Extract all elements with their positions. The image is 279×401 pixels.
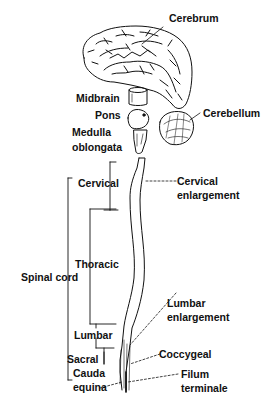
label-cauda-line2: equina <box>73 381 107 394</box>
pons-shape <box>128 109 149 128</box>
anatomy-diagram: Cerebrum Midbrain Pons Medulla oblongata… <box>0 0 279 401</box>
label-sacral: Sacral <box>67 353 99 366</box>
label-lumbar-enlargement-line1: Lumbar <box>167 297 206 310</box>
label-cauda-line1: Cauda <box>73 367 105 380</box>
label-filum-line1: Filum <box>181 368 209 381</box>
spinal-cord-shape <box>120 158 145 392</box>
label-lumbar: Lumbar <box>74 329 113 342</box>
label-medulla-line1: Medulla <box>72 126 111 139</box>
label-filum-line2: terminale <box>181 382 228 395</box>
cerebellum-shape <box>159 111 193 144</box>
medulla-shape <box>134 130 147 154</box>
label-midbrain: Midbrain <box>76 92 120 105</box>
label-cervical-enlargement-line1: Cervical <box>177 175 218 188</box>
midbrain-shape <box>129 88 147 106</box>
label-thoracic: Thoracic <box>75 258 119 271</box>
label-cerebellum: Cerebellum <box>203 107 260 120</box>
label-spinal-cord: Spinal cord <box>21 271 78 284</box>
label-cervical-enlargement-line2: enlargement <box>177 189 239 202</box>
label-lumbar-enlargement-line2: enlargement <box>167 311 229 324</box>
label-coccygeal: Coccygeal <box>159 348 212 361</box>
label-cervical: Cervical <box>78 177 119 190</box>
label-medulla-line2: oblongata <box>72 141 122 154</box>
label-cerebrum: Cerebrum <box>169 12 219 25</box>
label-pons: Pons <box>95 109 121 122</box>
